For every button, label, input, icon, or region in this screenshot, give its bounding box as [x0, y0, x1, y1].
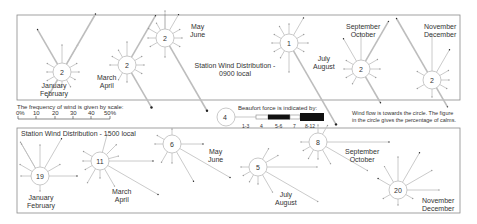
panel-0900-title: Station Wind Distribution - 0900 local	[190, 62, 280, 78]
spoke-tip	[39, 144, 40, 145]
spoke-tip	[150, 46, 151, 47]
spoke-tip	[202, 143, 203, 144]
wind-spoke	[353, 77, 357, 84]
wind-spoke	[132, 73, 152, 108]
rose-period-label-1500-3: JulyAugust	[275, 191, 297, 207]
tick-30: 30	[70, 110, 77, 117]
wind-spoke	[297, 48, 304, 52]
spoke-tip	[317, 201, 318, 202]
calm-percentage: 2	[163, 35, 167, 42]
spoke-tip	[417, 88, 418, 89]
spoke-tip	[78, 71, 79, 72]
beaufort-label-1-3: 1-3	[242, 123, 249, 130]
wind-spoke	[243, 172, 250, 176]
tick-50: 50%	[104, 110, 116, 117]
beaufort-label-5-6: 5-6	[275, 123, 282, 130]
spoke-tip	[171, 162, 172, 163]
wind-spoke	[106, 145, 116, 155]
wind-spoke	[67, 14, 96, 64]
spoke-tip	[147, 37, 148, 38]
wind-spoke	[170, 46, 208, 111]
wind-spoke	[297, 35, 304, 39]
wind-spoke	[70, 64, 77, 68]
spoke-tip	[346, 60, 347, 61]
spoke-tip	[116, 144, 117, 145]
calm-percentage: 5	[256, 164, 260, 171]
spoke-tip	[447, 106, 448, 107]
calm-percentage: 6	[170, 141, 174, 148]
spoke-tip	[277, 155, 278, 156]
spoke-tip	[179, 46, 180, 47]
spoke-tip	[148, 28, 149, 29]
spoke-tip	[95, 13, 96, 14]
beaufort-sample-value: 4	[223, 114, 227, 121]
spoke-tip	[141, 73, 142, 74]
wind-rose-1500-1: 11	[82, 134, 158, 195]
panel-1500-frame	[17, 128, 460, 213]
spoke-tip	[417, 71, 418, 72]
spoke-tip	[61, 138, 62, 139]
wind-spoke	[162, 152, 168, 162]
spoke-tip	[288, 71, 289, 72]
wind-spoke	[88, 169, 96, 183]
wind-spoke	[437, 88, 448, 107]
spoke-tip	[367, 170, 368, 171]
spoke-tip	[448, 79, 449, 80]
wind-spoke	[403, 153, 420, 182]
spoke-tip	[438, 189, 439, 190]
spoke-tip	[271, 42, 272, 43]
wind-spoke	[440, 85, 447, 89]
spoke-tip	[280, 57, 281, 58]
wind-spoke	[157, 23, 161, 30]
spoke-tip	[157, 135, 158, 136]
wind-spoke	[149, 29, 158, 34]
calm-percentage: 2	[125, 62, 129, 69]
calm-percentage: 8	[316, 139, 320, 146]
wind-spoke	[135, 70, 142, 74]
wind-spoke	[274, 48, 281, 52]
spoke-tip	[449, 49, 450, 50]
tick-10: 10	[33, 110, 40, 117]
spoke-tip	[99, 177, 100, 178]
tick-40: 40	[88, 110, 95, 117]
spoke-tip	[114, 185, 115, 186]
wind-spoke	[437, 50, 450, 73]
rose-period-label-0900-3: JulyAugust	[313, 55, 335, 71]
spoke-tip	[300, 141, 301, 142]
spoke-tip	[161, 161, 162, 162]
spoke-tip	[383, 198, 384, 199]
wind-spoke	[440, 71, 449, 76]
wind-rose-1500-0: 19	[19, 138, 77, 192]
spoke-tip	[384, 166, 385, 167]
beaufort-bar-7	[290, 115, 300, 119]
spoke-tip	[343, 38, 344, 39]
rose-period-label-0900-1: MarchApril	[97, 74, 116, 90]
spoke-tip	[70, 86, 71, 87]
spoke-tip	[327, 125, 328, 126]
wind-spoke	[170, 15, 179, 31]
wind-spoke	[378, 179, 390, 186]
spoke-tip	[343, 68, 344, 69]
wind-spoke	[383, 195, 390, 199]
spoke-tip	[375, 77, 376, 78]
wind-spoke	[281, 51, 285, 58]
wind-spoke	[369, 60, 378, 65]
spoke-tip	[352, 83, 353, 84]
rose-period-label-0900-5: NovemberDecember	[424, 23, 456, 39]
wind-spoke	[346, 61, 353, 65]
wind-spoke	[385, 167, 394, 183]
spoke-tip	[240, 166, 241, 167]
beaufort-bar-4	[256, 115, 268, 119]
spoke-tip	[181, 37, 182, 38]
spoke-tip	[379, 68, 380, 69]
rose-period-label-1500-1: MarchApril	[112, 188, 131, 204]
wind-spoke	[48, 165, 60, 172]
wind-spoke	[406, 171, 432, 186]
spoke-tip	[335, 123, 337, 125]
wind-spoke	[85, 166, 92, 170]
wind-spoke	[369, 74, 376, 78]
spoke-tip	[118, 50, 119, 51]
spoke-tip	[229, 177, 230, 178]
spoke-tip	[47, 63, 48, 64]
spoke-tip	[83, 151, 84, 152]
